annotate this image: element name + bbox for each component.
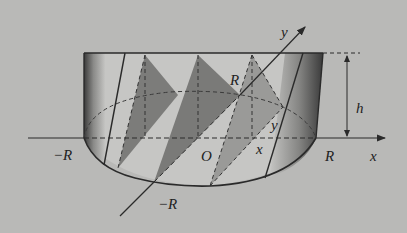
label-origin: O (201, 148, 212, 164)
label-y-point: y (269, 117, 278, 133)
y-axis-front-lower (120, 182, 154, 216)
label-y-axis: y (279, 24, 288, 40)
left-wall-shading (84, 53, 105, 165)
label-x-axis: x (369, 148, 377, 164)
half-cylinder-diagram: −R O x R x R y h −R y (0, 0, 407, 233)
label-R-right: R (324, 148, 334, 164)
label-neg-R-left: −R (53, 147, 72, 163)
label-R-on-y: R (229, 72, 239, 88)
label-x-point: x (255, 141, 263, 157)
label-height: h (356, 100, 364, 116)
label-neg-R-bottom: −R (158, 196, 177, 212)
